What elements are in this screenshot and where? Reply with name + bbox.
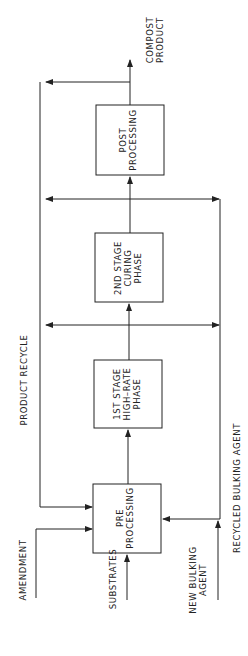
svg-text:PROCESSING: PROCESSING [125,487,135,548]
new-bulking-agent-label: NEW BULKING AGENT [188,546,208,613]
svg-text:NEW BULKING: NEW BULKING [188,546,198,613]
stage2-label: 2ND STAGE CURING PHASE [113,241,143,295]
svg-text:1ST STAGE: 1ST STAGE [112,368,122,420]
pre-processing-label: PRE PROCESSING [115,487,135,548]
svg-text:PROCESSING: PROCESSING [128,109,138,170]
recycled-bulking-label: RECYCLED BULKING AGENT [232,423,242,553]
compost-process-diagram: POST PROCESSING 2ND STAGE CURING PHASE 1… [0,0,248,656]
svg-text:PRODUCT: PRODUCT [155,17,165,63]
svg-text:AGENT: AGENT [198,564,208,596]
svg-text:CURING: CURING [123,249,133,286]
svg-text:COMPOST: COMPOST [145,17,155,64]
substrates-label: SUBSTRATES [108,549,118,610]
svg-text:POST: POST [118,127,128,152]
svg-text:HIGH–RATE: HIGH–RATE [122,368,132,421]
stage1-label: 1ST STAGE HIGH–RATE PHASE [112,368,142,421]
svg-text:PHASE: PHASE [132,378,142,409]
post-processing-label: POST PROCESSING [118,109,138,170]
product-recycle-label: PRODUCT RECYCLE [19,334,29,425]
svg-text:PRE: PRE [115,509,125,527]
svg-text:2ND STAGE: 2ND STAGE [113,241,123,295]
compost-product-label: COMPOST PRODUCT [145,17,165,64]
svg-text:PHASE: PHASE [133,252,143,283]
amendment-label: AMENDMENT [18,539,28,600]
